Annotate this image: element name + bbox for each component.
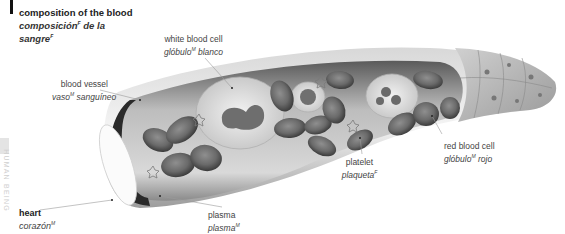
label-en: plasma	[208, 210, 240, 220]
label-en: blood vessel	[52, 79, 108, 89]
label-white-blood-cell: white blood cell glóbuloM blanco	[164, 34, 223, 57]
label-blood-vessel: blood vessel vasoM sanguíneo	[52, 79, 108, 102]
label-es: plasmaM	[208, 220, 240, 233]
label-en: red blood cell	[444, 141, 495, 151]
label-en: platelet	[337, 157, 382, 167]
label-heart: heart corazónM	[19, 208, 55, 231]
label-es: glóbuloM rojo	[444, 151, 495, 164]
blood-vessel-illustration	[0, 0, 565, 234]
label-es: vasoM sanguíneo	[52, 89, 108, 102]
label-es: corazónM	[19, 218, 55, 231]
label-en: white blood cell	[164, 34, 223, 44]
label-plasma: plasma plasmaM	[208, 210, 240, 233]
label-platelet: platelet plaquetaF	[337, 157, 382, 180]
white-blood-cell-secondary	[366, 74, 418, 118]
label-es: plaquetaF	[337, 167, 382, 180]
label-red-blood-cell: red blood cell glóbuloM rojo	[444, 141, 495, 164]
label-en: heart	[19, 208, 55, 218]
white-blood-cell-main	[196, 77, 284, 149]
label-es: glóbuloM blanco	[164, 44, 223, 57]
